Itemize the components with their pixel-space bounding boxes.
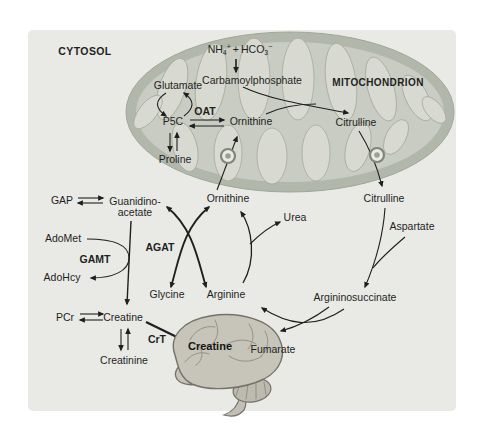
label-creatine: Creatine: [103, 312, 143, 323]
label-aspartate: Aspartate: [390, 221, 435, 232]
label-urea: Urea: [284, 212, 307, 223]
label-ornithine-mito: Ornithine: [230, 116, 273, 127]
enzyme-gamt-label: GAMT: [80, 254, 111, 265]
citrulline-transporter-icon: [370, 148, 384, 162]
label-guanidinoacetate: Guanidino- acetate: [109, 196, 160, 218]
mitochondrion-label: MITOCHONDRION: [332, 78, 424, 89]
label-pcr: PCr: [56, 312, 74, 323]
enzyme-oat-label: OAT: [194, 106, 215, 117]
label-gap: GAP: [51, 195, 73, 206]
label-glycine: Glycine: [149, 289, 184, 300]
mitochondrion-graphic: [126, 32, 454, 192]
label-guanidinoacetate-line2: acetate: [109, 207, 160, 218]
label-argininosuccinate: Argininosuccinate: [314, 292, 397, 303]
label-proline: Proline: [159, 154, 192, 165]
cytosol-label: CYTOSOL: [58, 46, 111, 57]
label-ammonia-bicarbonate: NH4++HCO3−: [208, 43, 273, 56]
label-ornithine-cytosol: Ornithine: [207, 193, 250, 204]
label-creatine-brain: Creatine: [188, 341, 232, 353]
enzyme-crt-label: CrT: [148, 334, 166, 345]
label-adomet: AdoMet: [45, 233, 81, 244]
pathway-figure: CYTOSOL MITOCHONDRION NH4++HCO3− Carbamo…: [0, 0, 484, 428]
ornithine-transporter-icon: [221, 149, 235, 163]
label-p5c: P5C: [163, 116, 183, 127]
label-creatinine: Creatinine: [100, 355, 148, 366]
label-carbamoylphosphate: Carbamoylphosphate: [202, 75, 302, 86]
label-citrulline-mito: Citrulline: [336, 117, 377, 128]
label-citrulline-cytosol: Citrulline: [364, 193, 405, 204]
label-glutamate: Glutamate: [154, 80, 202, 91]
label-adohcy: AdoHcy: [44, 272, 81, 283]
label-fumarate: Fumarate: [251, 344, 296, 355]
pathway-diagram-graphics: [0, 0, 484, 428]
label-arginine: Arginine: [207, 289, 246, 300]
enzyme-agat-label: AGAT: [146, 242, 175, 253]
